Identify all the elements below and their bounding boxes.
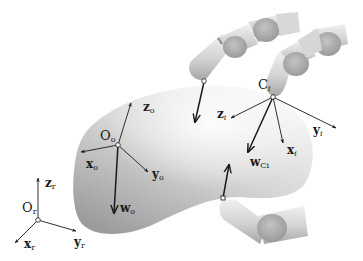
o-r-label: Or — [22, 201, 37, 216]
finger-joint — [253, 18, 279, 42]
contact-point — [202, 79, 207, 84]
z-i-label: zi — [217, 108, 226, 122]
reference-origin-point — [36, 218, 41, 223]
object-body — [73, 86, 313, 234]
finger-joint — [223, 36, 247, 58]
object-highlight — [73, 86, 313, 234]
x-o-label: xo — [86, 158, 98, 172]
y-r-axis-arrow — [38, 220, 76, 231]
contact-point — [221, 196, 225, 200]
finger-joint — [257, 214, 287, 242]
contact-point-ci — [271, 95, 276, 100]
z-r-label: zr — [45, 177, 56, 191]
finger-base — [276, 12, 300, 36]
y-r-label: yr — [74, 236, 85, 250]
grasp-diagram: zo Oo xo yo wo Ci zi yi xi wCi zr Or xr … — [0, 0, 363, 261]
y-i-label: yi — [313, 124, 323, 138]
y-o-label: yo — [152, 168, 164, 182]
w-ci-label: wCi — [250, 156, 269, 170]
finger-bottom — [220, 199, 309, 244]
z-o-label: zo — [143, 101, 155, 115]
x-i-label: xi — [287, 144, 297, 158]
diagram-canvas — [0, 0, 363, 261]
object-origin-point — [116, 143, 121, 148]
x-r-label: xr — [24, 238, 35, 252]
w-o-label: wo — [120, 202, 135, 216]
c-i-label: Ci — [258, 78, 271, 93]
o-o-label: Oo — [100, 129, 116, 144]
